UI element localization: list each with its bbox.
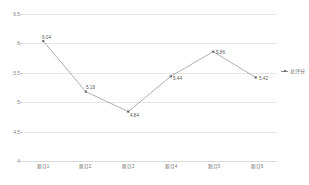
point-label-1: 5.18 [86,86,95,91]
data-point-marker-1 [85,91,87,93]
legend-label-total-score: 总评分 [290,69,305,74]
x-tick-label-0: 题目1 [37,165,50,170]
data-point-marker-3 [170,75,172,77]
line-chart: 6.5 6 5.5 5 4.5 4 6.04 5.18 4.84 5.44 5.… [0,0,309,185]
point-label-2: 4.84 [130,114,139,119]
point-label-0: 6.04 [42,36,51,41]
chart-legend: 总评分 [281,69,305,74]
point-label-3: 5.44 [173,77,182,82]
data-point-marker-4 [212,51,214,53]
x-tick-label-1: 题目2 [79,165,92,170]
x-tick-label-3: 题目4 [165,165,178,170]
series-total-score [0,0,309,185]
x-tick-label-4: 题目5 [208,165,221,170]
x-tick-label-2: 题目3 [122,165,135,170]
legend-marker-icon [281,71,288,72]
x-tick-label-5: 题目6 [251,165,264,170]
data-point-marker-5 [255,76,257,78]
point-label-4: 5.86 [216,51,225,56]
point-label-5: 5.42 [259,77,268,82]
